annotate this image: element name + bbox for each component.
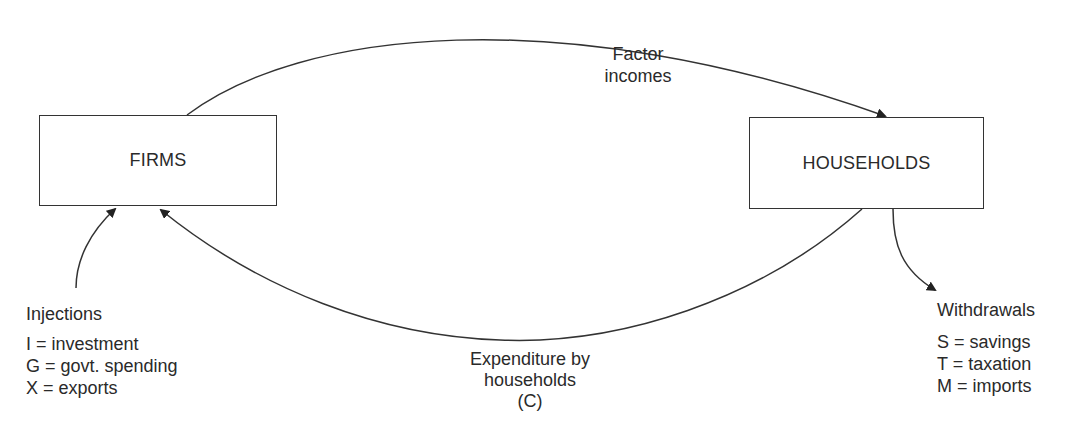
withdrawals-arrow	[893, 209, 935, 290]
households-label: HOUSEHOLDS	[802, 153, 930, 174]
expenditure-line3: (C)	[430, 391, 630, 412]
injection-item: I = investment	[26, 333, 178, 355]
injections-title: Injections	[26, 303, 178, 325]
withdrawal-item: T = taxation	[937, 353, 1035, 375]
injection-item: X = exports	[26, 377, 178, 399]
firms-box: FIRMS	[39, 115, 277, 206]
withdrawal-item: S = savings	[937, 331, 1035, 353]
expenditure-line1: Expenditure by	[430, 349, 630, 370]
factor-incomes-arrow	[187, 40, 885, 116]
withdrawal-item: M = imports	[937, 375, 1035, 397]
factor-incomes-line2: incomes	[578, 65, 698, 87]
withdrawals-title: Withdrawals	[937, 299, 1035, 321]
factor-incomes-label: Factor incomes	[578, 43, 698, 87]
expenditure-arrow	[161, 209, 862, 340]
injection-item: G = govt. spending	[26, 355, 178, 377]
expenditure-line2: households	[430, 370, 630, 391]
factor-incomes-line1: Factor	[578, 43, 698, 65]
firms-label: FIRMS	[130, 150, 187, 171]
injections-arrow	[76, 209, 115, 288]
households-box: HOUSEHOLDS	[749, 117, 984, 209]
injections-block: Injections I = investment G = govt. spen…	[26, 303, 178, 399]
withdrawals-block: Withdrawals S = savings T = taxation M =…	[937, 299, 1035, 397]
expenditure-label: Expenditure by households (C)	[430, 349, 630, 412]
